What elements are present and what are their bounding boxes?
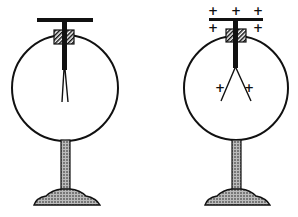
base [34, 189, 100, 205]
plus-charge: + [253, 4, 263, 18]
leaves-closed [62, 69, 68, 102]
rod [62, 20, 67, 70]
electroscope-charged: + + + + + + + [184, 4, 288, 205]
rod [233, 20, 238, 68]
electroscope-uncharged [12, 18, 118, 205]
plus-charge: + [231, 4, 241, 18]
base [205, 189, 270, 205]
plus-charge: + [253, 21, 263, 35]
plus-charge: + [208, 4, 218, 18]
plus-charge: + [244, 81, 254, 95]
plus-charge: + [215, 81, 225, 95]
stem [61, 140, 70, 190]
plus-charge: + [208, 21, 218, 35]
stem [232, 140, 241, 190]
electroscope-diagram: + + + + + + + [0, 0, 298, 217]
